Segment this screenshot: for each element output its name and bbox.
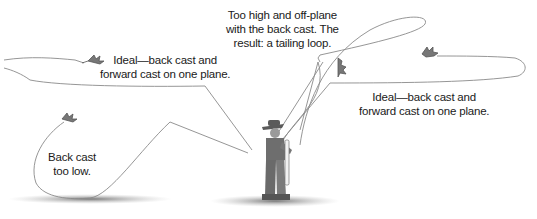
annotation-too-low: Back cast too low. bbox=[48, 150, 96, 178]
annotation-line: Back cast bbox=[48, 150, 96, 164]
annotation-line: result: a tailing loop. bbox=[226, 36, 339, 50]
annotation-line: too low. bbox=[48, 164, 96, 178]
annotation-line: forward cast on one plane. bbox=[359, 104, 489, 118]
angler-figure bbox=[262, 120, 292, 200]
annotation-line: Ideal—back cast and bbox=[100, 53, 230, 67]
fly-casting-diagram: Ideal—back cast and forward cast on one … bbox=[0, 0, 537, 219]
annotation-tailing-loop: Too high and off-plane with the back cas… bbox=[226, 8, 339, 50]
ground-shadow-left bbox=[8, 194, 172, 204]
annotation-line: Too high and off-plane bbox=[226, 8, 339, 22]
annotation-ideal-right: Ideal—back cast and forward cast on one … bbox=[359, 90, 489, 118]
dry-fly-icon-right bbox=[422, 47, 438, 57]
annotation-line: Ideal—back cast and bbox=[359, 90, 489, 104]
annotation-line: with the back cast. The bbox=[226, 22, 339, 36]
annotation-ideal-left: Ideal—back cast and forward cast on one … bbox=[100, 53, 230, 81]
annotation-line: forward cast on one plane. bbox=[100, 67, 230, 81]
dry-fly-icon-low bbox=[62, 113, 77, 122]
dry-fly-icon-tailing bbox=[338, 58, 346, 77]
